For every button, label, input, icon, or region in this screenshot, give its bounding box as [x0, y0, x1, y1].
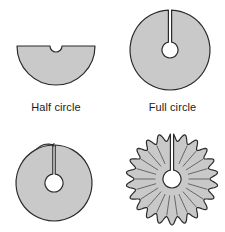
shape-sequence-figure: Half circle Full circle — [0, 0, 225, 232]
half-circle-with-notch-shape — [0, 30, 112, 96]
full-circle-with-hole-and-slit-shape — [120, 2, 225, 96]
panel-ruffled-disc — [120, 126, 225, 230]
full-circle-outline — [130, 10, 210, 90]
panel-full-circle — [120, 2, 225, 96]
panel-shallow-cone — [6, 128, 111, 228]
caption-half-circle: Half circle — [0, 101, 112, 114]
panel-half-circle — [0, 30, 112, 96]
ruffled-disc-outline — [126, 134, 217, 225]
half-circle-outline — [17, 46, 95, 85]
shallow-cone-shape — [6, 128, 111, 228]
shallow-cone-outline — [16, 145, 92, 221]
caption-full-circle: Full circle — [120, 101, 225, 114]
ruffled-disc-shape — [120, 126, 225, 230]
